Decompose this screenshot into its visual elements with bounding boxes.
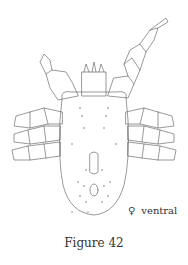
leg-1-right bbox=[108, 76, 134, 98]
body-outline bbox=[59, 92, 128, 215]
anal-plate bbox=[90, 184, 98, 196]
mite-illustration bbox=[0, 0, 188, 230]
leg-4-right bbox=[128, 142, 176, 160]
gnathosoma bbox=[82, 72, 106, 96]
leg-4-left bbox=[12, 142, 60, 160]
view-label: ventral bbox=[141, 205, 177, 216]
leg-2-right bbox=[126, 108, 174, 128]
figure-caption: Figure 42 bbox=[0, 236, 188, 250]
leg-3-left bbox=[14, 126, 60, 144]
leg-2-left bbox=[14, 108, 62, 128]
setae bbox=[71, 107, 117, 213]
genital-plate bbox=[90, 152, 98, 174]
sex-view-label: ♀ventral bbox=[128, 205, 177, 216]
leg-3-right bbox=[128, 126, 174, 144]
female-symbol: ♀ bbox=[128, 205, 135, 216]
